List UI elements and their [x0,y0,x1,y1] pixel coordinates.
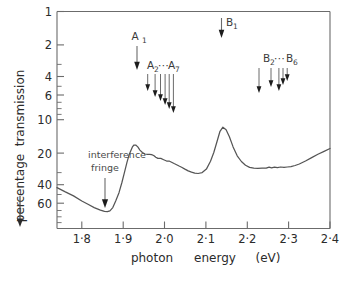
y-tick-label: 6 [45,89,52,103]
callout-interference-line2: fringe [91,162,119,173]
annotation-a2a7-sub-7: 7 [175,65,180,74]
callout-interference-line1: interference [88,149,146,160]
y-tick-label: 60 [37,197,52,211]
y-axis-title-transmission: transmission [13,70,27,147]
x-tick-label: 1·9 [114,232,132,246]
chart-page: 1 2 4 6 10 20 40 60 1·8 1·9 2·0 2·1 2·2 … [0,0,357,287]
x-tick-label: 2·0 [155,232,173,246]
y-tick-label: 4 [45,70,52,84]
annotation-a1-subscript: 1 [142,36,147,45]
y-tick-label: 10 [37,113,52,127]
annotation-a1-label: A [131,30,139,42]
y-tick-label: 20 [37,147,52,161]
x-tick-label: 2·4 [321,232,339,246]
x-axis-title-energy: energy [194,251,236,265]
chart-background [0,0,357,287]
x-axis-title: photon energy (eV) [131,251,281,265]
x-axis-title-photon: photon [131,251,173,265]
annotation-b2b6-sub-6: 6 [293,58,298,67]
x-tick-label: 2·3 [279,232,297,246]
x-axis-title-unit: (eV) [256,251,281,265]
x-tick-label: 1·8 [73,232,91,246]
annotation-a2a7-dots: ⋯ [158,59,169,71]
y-tick-label: 40 [37,178,52,192]
x-tick-label: 2·1 [197,232,215,246]
y-tick-label: 2 [45,38,52,52]
y-tick-label: 1 [45,5,52,19]
x-tick-label: 2·2 [238,232,256,246]
transmission-spectrum-chart: 1 2 4 6 10 20 40 60 1·8 1·9 2·0 2·1 2·2 … [0,0,357,287]
annotation-b1-subscript: 1 [233,22,238,31]
annotation-b2b6-dots: ⋯ [274,52,285,64]
